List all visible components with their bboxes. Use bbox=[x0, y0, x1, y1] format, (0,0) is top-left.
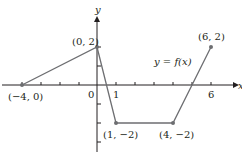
point-label-1-neg2: (1, −2) bbox=[103, 129, 138, 140]
point-label-4-neg2: (4, −2) bbox=[159, 129, 194, 140]
y-axis-arrow-icon bbox=[94, 16, 100, 22]
point-label-neg4-0: (−4, 0) bbox=[8, 91, 43, 102]
y-axis-label: y bbox=[94, 4, 101, 15]
x-tick-label-6: 6 bbox=[208, 89, 214, 100]
point-4-neg2 bbox=[171, 121, 175, 125]
function-label: y = f(x) bbox=[153, 56, 192, 67]
point-neg4-0 bbox=[20, 83, 24, 87]
point-label-0-2: (0, 2) bbox=[72, 36, 99, 47]
point-6-2 bbox=[209, 45, 213, 49]
x-tick-label-0: 0 bbox=[88, 89, 94, 100]
x-axis-label: x bbox=[238, 80, 242, 91]
point-label-6-2: (6, 2) bbox=[198, 31, 225, 42]
x-tick-label-1: 1 bbox=[113, 89, 119, 100]
function-graph: x y 0 1 6 (−4, 0) (0, 2) (1, −2) (4, −2) bbox=[0, 0, 242, 158]
x-axis: x bbox=[2, 80, 242, 91]
point-1-neg2 bbox=[114, 121, 118, 125]
y-axis: y bbox=[94, 4, 101, 152]
